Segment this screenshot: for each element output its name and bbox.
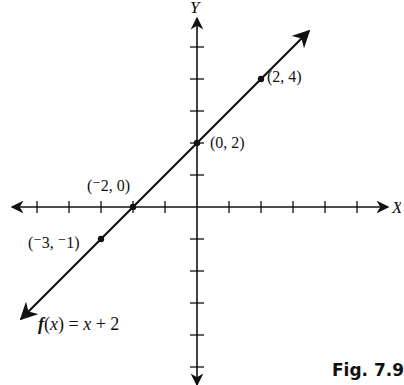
point-label-neg3-neg1: (⁻3, ⁻1) [28,234,80,252]
data-point [258,76,264,82]
data-point [98,236,104,242]
point-label-2-4: (2, 4) [267,68,302,86]
figure-caption: Fig. 7.9 [332,360,404,380]
y-axis-label: Y [190,0,201,17]
x-axis-label: X [391,198,401,217]
point-label-neg2-0: (⁻2, 0) [87,177,130,195]
point-label-0-2: (0, 2) [210,134,245,152]
function-label: f(x) = x + 2 [38,314,119,335]
data-point [130,204,136,210]
data-point [194,140,200,146]
function-line [21,31,309,319]
